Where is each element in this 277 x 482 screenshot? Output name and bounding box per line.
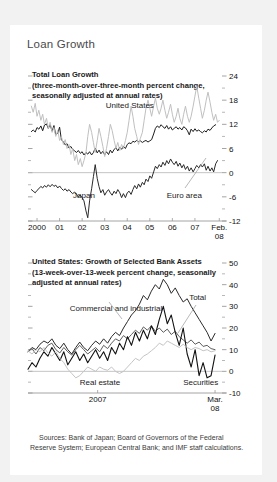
- x-axis-tick-label: 2000: [28, 223, 46, 232]
- chart-panel-total-loan-growth: Total Loan Growth (three-month-over-thre…: [10, 70, 262, 255]
- x-axis-tick-label: 2007: [89, 395, 107, 404]
- y-axis-tick-label: 30: [229, 302, 238, 311]
- y-axis-tick-label: 6: [229, 145, 234, 154]
- x-axis-tick-label-2: 08: [215, 232, 224, 241]
- x-axis-tick-label: 05: [145, 223, 154, 232]
- y-axis-tick-label: -6: [229, 193, 237, 202]
- x-axis-tick-label: 01: [55, 223, 64, 232]
- x-axis-tick-label: 04: [123, 223, 132, 232]
- chart-1-plot: -12-606121824200001020304050607Feb.08Uni…: [10, 70, 262, 255]
- series-annotation: Securities: [183, 378, 218, 387]
- series-line-securities: [28, 306, 215, 378]
- sources-text: Sources: Bank of Japan; Board of Governo…: [30, 434, 243, 451]
- x-axis-tick-label-2: 08: [211, 404, 220, 413]
- chart-panel-us-bank-assets: United States: Growth of Selected Bank A…: [10, 257, 262, 427]
- y-axis-tick-label: 0: [229, 169, 234, 178]
- leader-line-total: [178, 305, 196, 333]
- y-axis-tick-label: 24: [229, 72, 238, 81]
- y-axis-tick-label: -10: [229, 389, 241, 398]
- y-axis-tick-label: -12: [229, 217, 241, 226]
- x-axis-tick-label: Feb.: [211, 223, 227, 232]
- x-axis-tick-label: 03: [100, 223, 109, 232]
- figure-title: Loan Growth: [27, 38, 95, 50]
- series-annotation: United States: [106, 101, 154, 110]
- x-axis-tick-label: Mar.: [207, 395, 223, 404]
- series-annotation: Total: [189, 293, 206, 302]
- x-axis-tick-label: 02: [78, 223, 87, 232]
- chart-2-plot: -10010203040502007Mar.08Commercial and i…: [10, 257, 262, 427]
- y-axis-tick-label: 12: [229, 120, 238, 129]
- series-annotation: Real estate: [80, 378, 121, 387]
- y-axis-tick-label: 18: [229, 96, 238, 105]
- series-line-euro-area: [31, 86, 219, 167]
- x-axis-tick-label: 07: [190, 223, 199, 232]
- x-axis-tick-label: 06: [168, 223, 177, 232]
- series-annotation: Japan: [73, 191, 95, 200]
- y-axis-tick-label: 40: [229, 281, 238, 290]
- y-axis-tick-label: 50: [229, 259, 238, 268]
- series-annotation: Euro area: [167, 191, 203, 200]
- series-line-japan: [31, 159, 217, 218]
- y-axis-tick-label: 20: [229, 324, 238, 333]
- sources-note: Sources: Bank of Japan; Board of Governo…: [30, 433, 248, 452]
- figure-card: Loan Growth Total Loan Growth (three-mon…: [10, 25, 262, 475]
- y-axis-tick-label: 10: [229, 346, 238, 355]
- y-axis-tick-label: 0: [229, 367, 234, 376]
